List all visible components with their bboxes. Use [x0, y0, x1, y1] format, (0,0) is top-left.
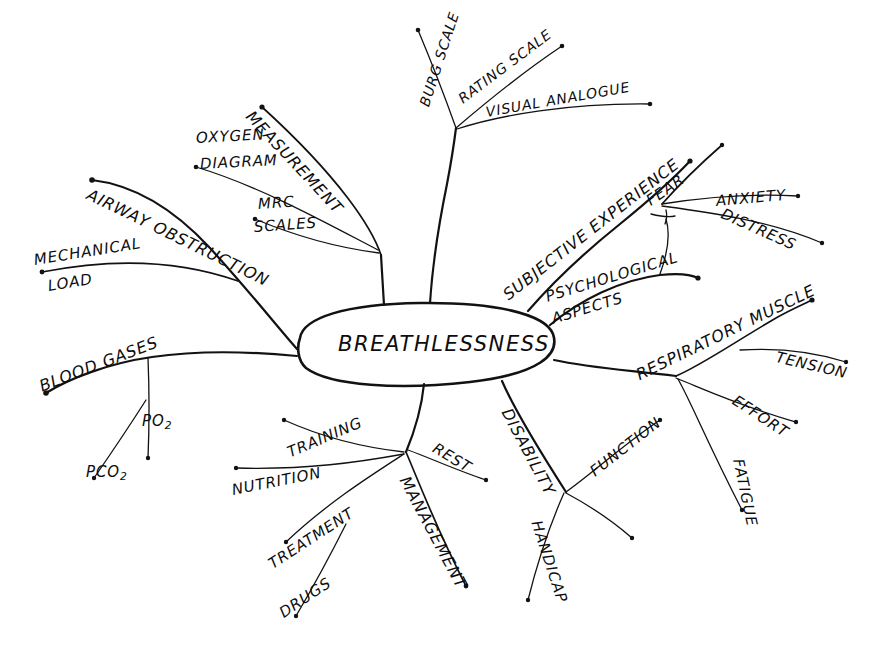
- branch-fear-stub[interactable]: [651, 214, 675, 217]
- endpoint-oxygen-diagram: [194, 165, 199, 170]
- endpoint-burg-scale: [416, 28, 421, 33]
- endpoint-airway-obstruction: [89, 177, 95, 183]
- endpoint-effort: [794, 420, 798, 424]
- label-po2: PO2: [142, 412, 172, 432]
- endpoint-disability-stub: [630, 536, 634, 540]
- endpoint-po2: [146, 456, 150, 460]
- branch-disability-stub[interactable]: [566, 493, 632, 538]
- branch-fatigue[interactable]: [678, 379, 742, 510]
- label-po2-text: PO: [142, 412, 165, 430]
- branch-management-root[interactable]: [406, 384, 424, 452]
- label-pco2-subscript: 2: [120, 470, 128, 483]
- endpoint-subjective-experience: [687, 158, 692, 163]
- endpoint-psychological-aspects: [695, 275, 700, 280]
- endpoint-training: [282, 418, 286, 422]
- endpoint-nutrition: [234, 466, 238, 470]
- endpoint-anxiety: [796, 194, 800, 198]
- branch-measurement[interactable]: [381, 255, 384, 305]
- label-pco2-text: PCO: [86, 463, 120, 481]
- label-mrc: MRC: [257, 192, 295, 213]
- endpoint-visual-analogue: [648, 102, 653, 107]
- mindmap-canvas: BREATHLESSNESS MEASUREMENT OXYGEN DIAGRA…: [0, 0, 895, 664]
- endpoint-mechanical-load: [40, 270, 45, 275]
- branch-po2[interactable]: [148, 358, 149, 458]
- endpoint-distress: [820, 241, 824, 245]
- label-oxygen: OXYGEN: [196, 125, 265, 147]
- endpoint-measurement: [259, 104, 264, 109]
- label-pco2: PCO2: [86, 463, 128, 483]
- label-po2-subscript: 2: [165, 419, 173, 432]
- endpoint-rating-scale: [560, 44, 565, 49]
- endpoint-fear: [720, 143, 724, 147]
- endpoint-rest: [484, 478, 488, 482]
- endpoint-handicap: [526, 598, 530, 602]
- central-node-label: BREATHLESSNESS: [338, 332, 550, 356]
- branch-rating-scale-stem[interactable]: [430, 128, 456, 303]
